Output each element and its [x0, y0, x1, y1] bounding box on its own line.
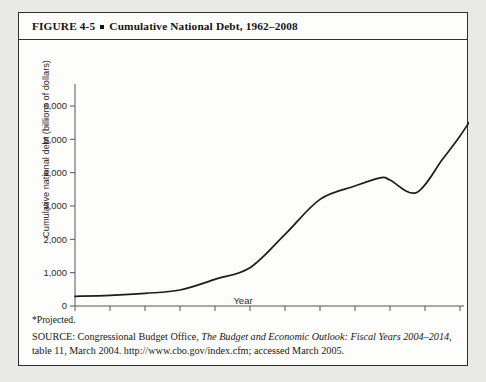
source-note: SOURCE: Congressional Budget Office, The… [32, 330, 456, 359]
chart-plot-area: Cumulative national debt (billions of do… [19, 40, 467, 312]
figure-number: FIGURE 4-5 [32, 20, 95, 32]
y-tick-label: 1,000 [44, 267, 67, 278]
y-tick-label: 2,000 [44, 234, 67, 245]
figure-container: FIGURE 4-5Cumulative National Debt, 1962… [18, 12, 468, 366]
y-tick-label: 3,000 [44, 200, 67, 211]
projected-footnote: *Projected. [32, 313, 456, 327]
figure-notes: *Projected. SOURCE: Congressional Budget… [32, 313, 456, 359]
line-chart: 01,0002,0003,0004,0005,0006,000196219661… [19, 40, 469, 312]
page-title: FIGURE 4-5Cumulative National Debt, 1962… [32, 20, 298, 32]
source-prefix: SOURCE: Congressional Budget Office, [32, 331, 201, 342]
y-tick-label: 5,000 [44, 134, 67, 145]
figure-title: Cumulative National Debt, 1962–2008 [109, 20, 298, 32]
source-title: The Budget and Economic Outlook: Fiscal … [201, 331, 449, 342]
debt-line-series [75, 109, 469, 296]
y-tick-label: 6,000 [44, 100, 67, 111]
y-tick-label: 0 [62, 300, 67, 311]
bullet-separator-icon [100, 25, 104, 29]
y-tick-label: 4,000 [44, 167, 67, 178]
figure-title-bar: FIGURE 4-5Cumulative National Debt, 1962… [19, 13, 467, 40]
